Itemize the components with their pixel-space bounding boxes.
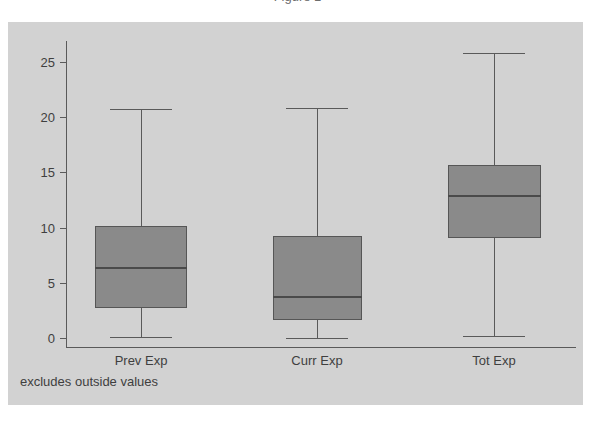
figure-panel: 0510152025 Prev ExpCurr ExpTot Exp exclu…: [8, 22, 583, 405]
y-tick-mark: [60, 172, 66, 173]
category-label: Prev Exp: [115, 353, 168, 368]
upper-whisker-cap: [110, 109, 172, 110]
category-label: Tot Exp: [472, 353, 515, 368]
y-axis-line: [66, 41, 67, 348]
lower-whisker-cap: [110, 337, 172, 338]
box-iqr: [448, 165, 541, 238]
lower-whisker-stem: [317, 320, 318, 338]
median-line: [273, 296, 362, 298]
y-tick-label: 25: [41, 56, 55, 69]
lower-whisker-cap: [286, 338, 348, 339]
lower-whisker-stem: [494, 238, 495, 336]
cropped-header-strip: Figure 1: [0, 0, 595, 14]
upper-whisker-cap: [463, 53, 525, 54]
y-tick-mark: [60, 338, 66, 339]
y-tick-mark: [60, 117, 66, 118]
cropped-header-text: Figure 1: [0, 0, 595, 4]
y-tick-label: 10: [41, 221, 55, 234]
lower-whisker-stem: [141, 308, 142, 337]
upper-whisker-stem: [317, 108, 318, 236]
upper-whisker-stem: [141, 109, 142, 226]
y-tick-label: 20: [41, 111, 55, 124]
lower-whisker-cap: [463, 336, 525, 337]
box-iqr: [273, 236, 362, 320]
y-tick-label: 5: [48, 276, 55, 289]
x-axis-line: [66, 347, 576, 348]
y-tick-mark: [60, 62, 66, 63]
category-label: Curr Exp: [291, 353, 342, 368]
y-tick-label: 0: [48, 332, 55, 345]
boxplot-plot-area: 0510152025 Prev ExpCurr ExpTot Exp: [8, 22, 583, 405]
median-line: [95, 267, 187, 269]
median-line: [448, 195, 541, 197]
y-tick-mark: [60, 283, 66, 284]
upper-whisker-stem: [494, 53, 495, 165]
y-tick-label: 15: [41, 166, 55, 179]
footnote-text: excludes outside values: [20, 374, 158, 389]
y-tick-mark: [60, 228, 66, 229]
upper-whisker-cap: [286, 108, 348, 109]
